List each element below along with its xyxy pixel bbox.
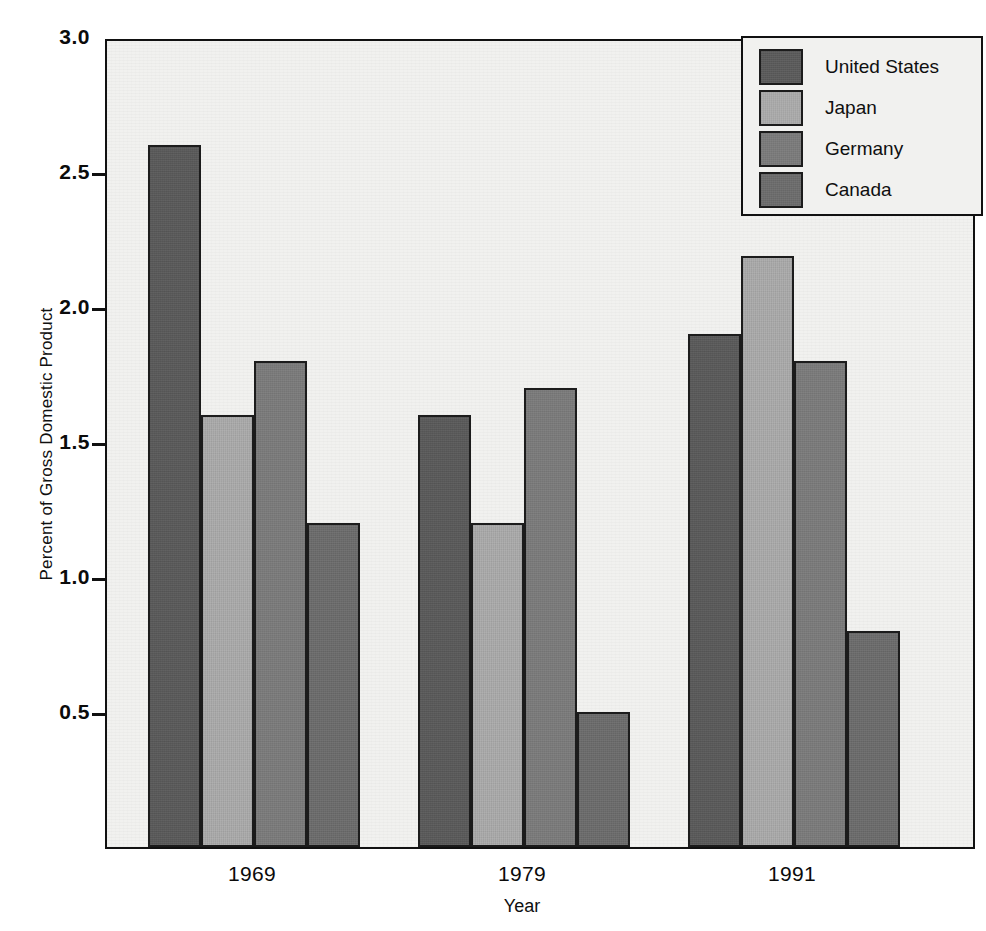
y-tick-label: 3.0 bbox=[26, 25, 90, 49]
y-tick-label: 2.0 bbox=[26, 295, 90, 319]
legend-label: Germany bbox=[825, 138, 903, 160]
bar-united-states-1991 bbox=[688, 334, 741, 847]
bar-united-states-1979 bbox=[418, 415, 471, 847]
legend: United StatesJapanGermanyCanada bbox=[741, 36, 983, 216]
bar-canada-1979 bbox=[577, 712, 630, 847]
bar-canada-1991 bbox=[847, 631, 900, 847]
bar-germany-1969 bbox=[254, 361, 307, 847]
legend-swatch-icon bbox=[759, 131, 803, 167]
x-axis-label: Year bbox=[222, 896, 822, 917]
bar-united-states-1969 bbox=[148, 145, 201, 847]
bar-canada-1969 bbox=[307, 523, 360, 847]
legend-item-canada[interactable]: Canada bbox=[759, 171, 892, 209]
y-tick-label: 2.5 bbox=[26, 160, 90, 184]
legend-label: Canada bbox=[825, 179, 892, 201]
y-axis-tick-labels: 0.51.01.52.02.53.0 bbox=[18, 0, 90, 931]
x-axis-label-text: Year bbox=[504, 896, 540, 917]
bar-germany-1991 bbox=[794, 361, 847, 847]
legend-swatch-icon bbox=[759, 90, 803, 126]
y-tick-label: 1.5 bbox=[26, 430, 90, 454]
x-tick-label-1969: 1969 bbox=[172, 862, 332, 886]
bar-germany-1979 bbox=[524, 388, 577, 847]
legend-swatch-icon bbox=[759, 172, 803, 208]
y-tick-label: 0.5 bbox=[26, 700, 90, 724]
bar-japan-1991 bbox=[741, 256, 794, 847]
legend-item-germany[interactable]: Germany bbox=[759, 130, 903, 168]
legend-item-united-states[interactable]: United States bbox=[759, 48, 939, 86]
x-tick-label-1991: 1991 bbox=[712, 862, 872, 886]
legend-item-japan[interactable]: Japan bbox=[759, 89, 877, 127]
legend-label: Japan bbox=[825, 97, 877, 119]
chart-figure: Percent of Gross Domestic Product 0.51.0… bbox=[0, 0, 986, 931]
legend-swatch-icon bbox=[759, 49, 803, 85]
x-tick-label-1979: 1979 bbox=[442, 862, 602, 886]
bar-japan-1969 bbox=[201, 415, 254, 847]
y-tick-label: 1.0 bbox=[26, 565, 90, 589]
bar-japan-1979 bbox=[471, 523, 524, 847]
legend-label: United States bbox=[825, 56, 939, 78]
